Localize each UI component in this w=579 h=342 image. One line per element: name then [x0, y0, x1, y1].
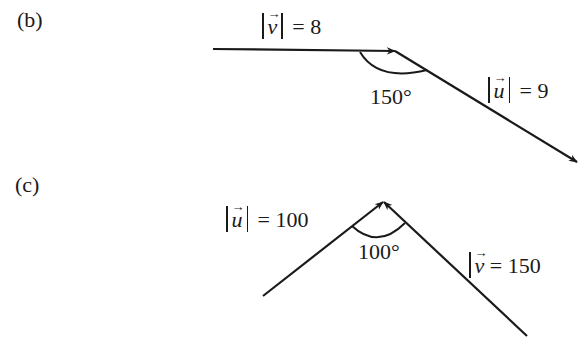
abs-bar-right	[281, 13, 283, 39]
vector-diagrams-canvas	[0, 0, 579, 342]
angle-label-c: 100°	[358, 241, 400, 263]
abs-bar-left	[469, 252, 471, 278]
part-label-c: (c)	[15, 174, 39, 196]
angle-label-b: 150°	[370, 86, 412, 108]
abs-bar-left	[488, 77, 490, 103]
vector-arrow-icon: →	[494, 71, 505, 84]
vector-u-b	[395, 51, 577, 162]
abs-bar-left	[262, 13, 264, 39]
angle-arc-c	[352, 223, 405, 237]
vector-symbol-u: →u	[232, 209, 243, 231]
vector-arrow-icon: →	[475, 246, 485, 259]
abs-bar-right	[509, 77, 511, 103]
abs-bar-left	[226, 206, 228, 232]
part-label-b: (b)	[17, 9, 43, 31]
magnitude-label-u-b: →u = 9	[484, 77, 548, 103]
magnitude-value: = 9	[520, 78, 549, 103]
vector-symbol-u: →u	[494, 80, 505, 102]
magnitude-label-u-c: →u = 100	[222, 206, 308, 232]
vector-symbol-v: →v	[475, 255, 485, 277]
vector-symbol-v: →v	[268, 16, 278, 38]
magnitude-value: = 8	[292, 14, 321, 39]
angle-arc-b	[360, 52, 427, 73]
magnitude-value: = 100	[258, 207, 309, 232]
magnitude-label-v-b: →v = 8	[258, 13, 321, 39]
vector-arrow-icon: →	[232, 200, 243, 213]
vector-v-b	[213, 49, 395, 51]
vector-arrow-icon: →	[268, 7, 278, 20]
abs-bar-right	[247, 206, 249, 232]
magnitude-value: = 150	[490, 253, 541, 278]
magnitude-label-v-c: →v = 150	[465, 252, 541, 278]
